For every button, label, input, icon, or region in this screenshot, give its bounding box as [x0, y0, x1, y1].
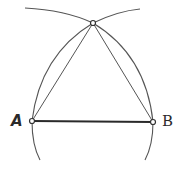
- point-b: [151, 120, 156, 125]
- point-a: [30, 119, 35, 124]
- arc-left-side: [32, 23, 93, 160]
- segment-bc: [93, 23, 153, 122]
- point-c: [91, 21, 96, 26]
- arc-centered-at-b-top: [93, 9, 140, 23]
- arc-centered-at-a: [25, 8, 93, 23]
- construction-diagram: [0, 0, 185, 175]
- segment-ab: [32, 121, 153, 122]
- label-a: A: [11, 114, 23, 129]
- segment-ac: [32, 23, 93, 121]
- label-b: B: [162, 114, 173, 129]
- arc-right-side: [93, 23, 153, 160]
